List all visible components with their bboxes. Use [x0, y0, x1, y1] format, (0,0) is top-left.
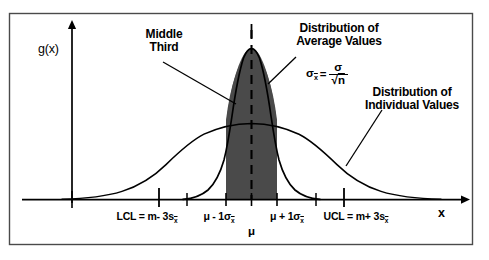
- formula-equals: =: [320, 68, 327, 80]
- x-tick-label-lcl-text: LCL = m- 3s: [116, 210, 173, 222]
- x-tick-label-minus-one-sigma-text: μ - 1σ: [203, 210, 231, 222]
- formula-radicand: n: [338, 74, 345, 86]
- formula-lhs: σx: [306, 67, 318, 82]
- distribution-diagram: [0, 0, 489, 260]
- sigma-xbar-formula: σx = σ √n: [306, 62, 348, 86]
- figure-container: g(x) x Middle Third Distribution of Aver…: [0, 0, 489, 260]
- x-tick-label-ucl: UCL = m+ 3sx: [324, 211, 389, 224]
- formula-lhs-subscript: x: [314, 74, 318, 82]
- annotation-average-values: Distribution of Average Values: [296, 22, 381, 49]
- formula-denominator: √n: [329, 74, 348, 87]
- x-tick-label-plus-one-sigma-text: μ + 1σ: [270, 210, 300, 222]
- x-tick-label-ucl-subscript: x: [385, 217, 389, 224]
- annotation-average-values-line2: Average Values: [296, 35, 381, 48]
- x-tick-label-lcl: LCL = m- 3sx: [116, 211, 177, 224]
- annotation-individual-values-line1: Distribution of: [365, 86, 459, 99]
- x-axis-label: x: [438, 206, 445, 220]
- annotation-middle-third: Middle Third: [146, 28, 183, 55]
- y-axis-label: g(x): [38, 42, 59, 56]
- formula-fraction: σ √n: [329, 62, 348, 86]
- x-tick-label-plus-one-sigma: μ + 1σx: [270, 211, 304, 224]
- x-tick-label-minus-one-sigma-subscript: x: [231, 217, 235, 224]
- annotation-middle-third-line2: Third: [146, 41, 183, 54]
- annotation-individual-values: Distribution of Individual Values: [365, 86, 459, 113]
- annotation-middle-third-line1: Middle: [146, 28, 183, 41]
- x-tick-label-ucl-text: UCL = m+ 3s: [324, 210, 385, 222]
- annotation-individual-values-line2: Individual Values: [365, 99, 459, 112]
- x-tick-label-minus-one-sigma: μ - 1σx: [203, 211, 234, 224]
- formula-numerator: σ: [331, 62, 345, 74]
- annotation-average-values-line1: Distribution of: [296, 22, 381, 35]
- x-tick-label-plus-one-sigma-subscript: x: [300, 217, 304, 224]
- x-tick-label-mu: μ: [248, 225, 255, 238]
- formula-lhs-symbol: σ: [306, 67, 314, 79]
- x-tick-label-lcl-subscript: x: [174, 217, 178, 224]
